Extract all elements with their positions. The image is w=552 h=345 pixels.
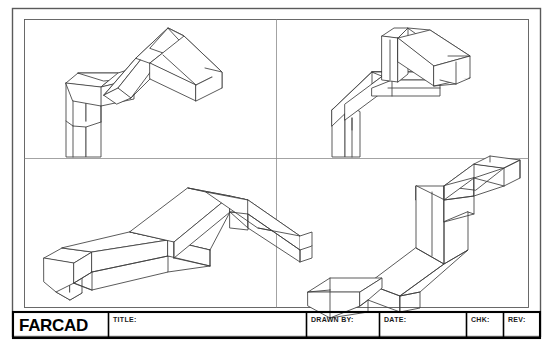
- title-block-frame: [13, 312, 540, 338]
- title-field-label: TITLE:: [113, 316, 137, 323]
- farcad-logo: FARCAD: [19, 317, 88, 334]
- isometric-view-4: [308, 156, 520, 318]
- isometric-view-2: [332, 28, 470, 157]
- drawn-by-field-label: DRAWN BY:: [311, 316, 354, 323]
- drawing-sheet: FARCAD TITLE: DRAWN BY: DATE: CHK: REV:: [0, 0, 552, 345]
- isometric-view-3: [44, 188, 312, 300]
- isometric-view-1: [66, 28, 222, 157]
- chk-field-label: CHK:: [471, 316, 490, 323]
- date-field-label: DATE:: [384, 316, 406, 323]
- rev-field-label: REV:: [508, 316, 526, 323]
- drawing-canvas: [0, 0, 552, 345]
